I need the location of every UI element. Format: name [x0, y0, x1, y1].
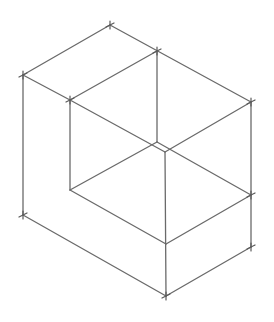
edge-left_top-inner_left_top	[23, 75, 70, 100]
edge-top-right_top	[110, 25, 251, 102]
diagram-edges	[23, 25, 251, 296]
edge-inner_left_top-inner_back_top	[70, 51, 157, 100]
edge-inner_left_bottom-inner_back_bottom	[70, 142, 157, 190]
edge-front_mid-right_mid	[166, 195, 251, 244]
edge-bottom-right_bottom	[166, 247, 251, 296]
edge-inner_front_top-bottom	[165, 152, 166, 296]
edge-top-left_top	[23, 25, 110, 75]
edge-inner_front_top-right_top	[165, 102, 251, 152]
isometric-block-diagram	[0, 0, 274, 322]
edge-inner_back_bottom-right_mid	[157, 142, 251, 195]
edge-inner_left_bottom-front_mid	[70, 190, 166, 244]
edge-inner_left_top-inner_front_top	[70, 100, 165, 152]
edge-left_bottom-bottom	[23, 215, 166, 296]
